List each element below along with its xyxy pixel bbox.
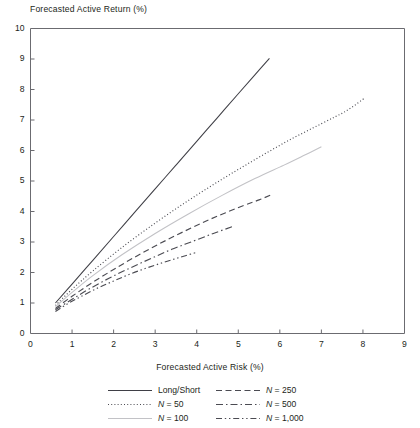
legend-item: N = 100 [108,413,216,423]
legend-label: Long/Short [158,385,200,395]
series-line [55,227,232,310]
series-line [55,252,196,311]
y-tick-label: 10 [3,23,25,33]
legend-label: N = 50 [158,399,184,409]
x-tick-label: 4 [187,339,207,349]
series-line [55,195,270,308]
y-tick-label: 0 [3,328,25,338]
chart-legend: Long/ShortN = 250N = 50N = 500N = 100N =… [108,383,358,425]
y-tick-label: 4 [3,206,25,216]
x-tick-label: 6 [270,339,290,349]
x-tick-label: 7 [311,339,331,349]
series-line [55,147,321,307]
legend-label: N = 250 [266,385,296,395]
legend-item: Long/Short [108,385,216,395]
y-tick-label: 6 [3,145,25,155]
x-axis-title: Forecasted Active Risk (%) [0,362,420,372]
legend-line-swatch [108,400,152,409]
legend-label: N = 1,000 [266,413,304,423]
y-tick-label: 5 [3,175,25,185]
chart-figure: Forecasted Active Return (%) 01234567891… [0,0,420,428]
legend-item: N = 500 [216,399,342,409]
y-tick-label: 2 [3,267,25,277]
x-tick-label: 5 [228,339,248,349]
legend-item: N = 50 [108,399,216,409]
x-tick-label: 3 [145,339,165,349]
x-tick-label: 2 [104,339,124,349]
y-tick-label: 9 [3,53,25,63]
x-tick-label: 9 [395,339,415,349]
legend-label: N = 500 [266,399,296,409]
legend-item: N = 1,000 [216,413,342,423]
series-line [55,58,269,303]
plot-frame [31,29,405,334]
y-tick-label: 1 [3,297,25,307]
y-tick-label: 8 [3,84,25,94]
y-tick-label: 3 [3,236,25,246]
x-tick-label: 8 [353,339,373,349]
x-tick-label: 0 [21,339,41,349]
legend-label: N = 100 [158,413,188,423]
legend-line-swatch [216,400,260,409]
legend-line-swatch [216,414,260,423]
y-tick-label: 7 [3,114,25,124]
legend-line-swatch [108,386,152,395]
legend-line-swatch [216,386,260,395]
x-tick-label: 1 [62,339,82,349]
legend-line-swatch [108,414,152,423]
legend-item: N = 250 [216,385,342,395]
